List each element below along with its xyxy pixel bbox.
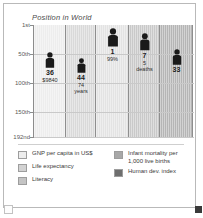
axis-tick-label: 100th	[15, 80, 30, 86]
data-marker-infant-mortality[interactable]: 75deaths	[136, 33, 153, 72]
chart-figure: Position in World 1st50th100th150th192nd…	[3, 3, 196, 208]
legend-item[interactable]: Literacy	[18, 176, 118, 186]
axis-tick-label: 1st	[22, 22, 30, 28]
legend-item[interactable]: Human dev. index	[114, 168, 198, 178]
person-icon	[106, 28, 119, 47]
person-icon	[171, 49, 182, 65]
legend-divider	[18, 144, 184, 145]
marker-rank-value: 44	[74, 74, 87, 82]
legend-item[interactable]: GNP per capita in US$	[18, 150, 118, 160]
legend-item-label: GNP per capita in US$	[32, 150, 118, 158]
legend-item-label: Human dev. index	[128, 168, 198, 176]
legend-item-label: Life expectancy	[32, 163, 118, 171]
plot-area: 36$98404474years199%75deaths33	[33, 25, 193, 138]
marker-rank-value: 36	[42, 69, 57, 77]
legend-column-left: GNP per capita in US$Life expectancyLite…	[18, 150, 118, 189]
marker-rank-value: 7	[136, 52, 153, 60]
legend-item-label: Literacy	[32, 176, 118, 184]
gridline	[34, 137, 194, 138]
data-marker-gnp-per-capita[interactable]: 36$9840	[42, 52, 57, 83]
corner-mark-bottom-right	[195, 206, 202, 213]
person-icon	[138, 33, 150, 51]
person-icon	[76, 58, 86, 73]
gridline	[34, 83, 194, 84]
legend-item[interactable]: Infant mortality per1,000 live births	[114, 150, 198, 165]
corner-mark-bottom-left	[4, 205, 13, 214]
legend-item-label: Infant mortality per	[128, 150, 198, 158]
gridline	[34, 112, 194, 113]
axis-tick-label: 192nd	[13, 134, 30, 140]
marker-rank-value: 1	[106, 48, 119, 56]
data-marker-human-dev-index[interactable]: 33	[171, 49, 182, 74]
marker-detail-line1: $9840	[42, 77, 57, 83]
axis-tick-label: 150th	[15, 109, 30, 115]
axis-tick-label: 50th	[18, 51, 30, 57]
legend-swatch-icon	[114, 151, 123, 159]
y-axis: 1st50th100th150th192nd	[4, 25, 30, 138]
legend-swatch-icon	[18, 177, 27, 185]
marker-detail-line1: 99%	[106, 56, 119, 62]
legend-swatch-icon	[18, 164, 27, 172]
legend-column-right: Infant mortality per1,000 live birthsHum…	[114, 150, 198, 181]
chart-column-human-dev-index[interactable]	[160, 25, 193, 138]
page-title: Position in World	[32, 13, 92, 22]
marker-rank-value: 33	[171, 66, 182, 74]
legend-swatch-icon	[114, 169, 123, 177]
person-icon	[44, 52, 55, 68]
chart-legend: GNP per capita in US$Life expectancyLite…	[4, 144, 197, 202]
marker-detail-line2: years	[74, 88, 87, 94]
data-marker-life-expectancy[interactable]: 4474years	[74, 58, 87, 94]
legend-item[interactable]: Life expectancy	[18, 163, 118, 173]
marker-detail-line2: deaths	[136, 66, 153, 72]
data-marker-literacy[interactable]: 199%	[106, 28, 119, 62]
legend-swatch-icon	[18, 151, 27, 159]
legend-item-label-line2: 1,000 live births	[128, 158, 198, 166]
